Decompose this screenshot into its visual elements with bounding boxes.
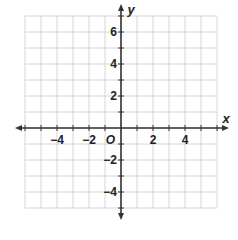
x-tick-label: 2: [150, 133, 157, 147]
x-tick-label: 4: [182, 133, 189, 147]
x-axis-label: x: [221, 111, 230, 126]
x-tick-label: −2: [82, 133, 96, 147]
y-tick-label: 6: [110, 25, 117, 39]
y-tick-label: −4: [103, 185, 117, 199]
x-tick-label: −4: [50, 133, 64, 147]
y-axis-label: y: [126, 2, 135, 17]
y-tick-label: 2: [110, 89, 117, 103]
coordinate-plane: −4−224642−2−4Oxy: [0, 0, 238, 240]
origin-label: O: [106, 133, 116, 147]
y-tick-label: −2: [103, 153, 117, 167]
y-axis-up-arrow-icon: [118, 4, 124, 11]
y-axis-down-arrow-icon: [118, 213, 124, 220]
x-axis-left-arrow-icon: [15, 125, 22, 131]
y-tick-label: 4: [110, 57, 117, 71]
